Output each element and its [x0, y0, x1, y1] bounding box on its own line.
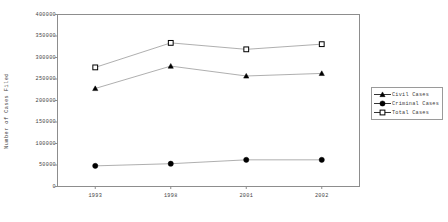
- series-criminal-cases: [93, 157, 325, 168]
- line-chart-figure: Number of Cases Filed 050000100000150000…: [0, 0, 448, 222]
- plot-frame: [58, 15, 360, 187]
- legend-marker-filled-circle-icon: [374, 99, 391, 108]
- legend-label: Civil Cases: [391, 92, 429, 98]
- legend-item: Criminal Cases: [374, 99, 439, 108]
- legend-item: Total Cases: [374, 108, 439, 117]
- series-civil-cases: [93, 64, 325, 91]
- chart-legend: Civil CasesCriminal CasesTotal Cases: [371, 87, 443, 120]
- data-series-group: [93, 40, 325, 168]
- legend-label: Total Cases: [391, 110, 429, 116]
- legend-label: Criminal Cases: [391, 101, 439, 107]
- legend-item: Civil Cases: [374, 90, 439, 99]
- legend-marker-open-square-icon: [374, 108, 391, 117]
- series-total-cases: [93, 40, 324, 69]
- legend-marker-filled-triangle-icon: [374, 90, 391, 99]
